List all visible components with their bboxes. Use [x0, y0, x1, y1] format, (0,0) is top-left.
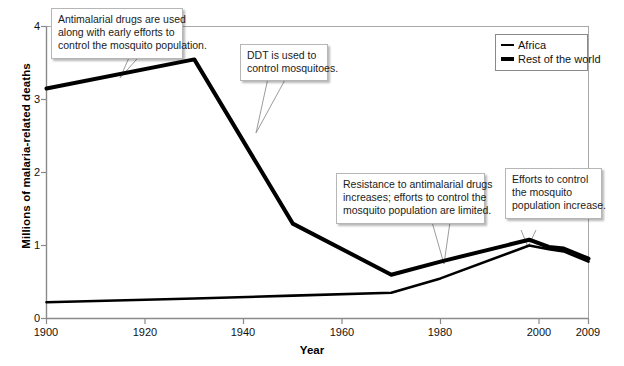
legend-label-africa: Africa: [518, 38, 546, 52]
legend-item-africa: Africa: [501, 38, 579, 52]
x-axis-ticks: [47, 319, 589, 325]
annotation-line: population increase.: [512, 199, 595, 212]
series-line-africa: [47, 246, 589, 303]
x-tick-label-2009: 2009: [563, 326, 613, 338]
callout-leader-lines: [120, 42, 536, 264]
chart-container: 4 3 2 1 0 1900 1920 1940 1960 1980 2000 …: [0, 0, 624, 366]
legend-item-rest-of-the-world: Rest of the world: [501, 52, 579, 66]
x-tick-label-1920: 1920: [120, 326, 170, 338]
chart-legend: Africa Rest of the world: [495, 34, 588, 71]
x-axis-title: Year: [0, 344, 624, 356]
x-tick-label-1960: 1960: [317, 326, 367, 338]
y-axis-title: Millions of malaria-related deaths: [20, 36, 32, 276]
annotation-line: increases; efforts to control the: [343, 191, 478, 204]
x-tick-label-1900: 1900: [21, 326, 71, 338]
annotation-antimalarial-drugs: Antimalarial drugs are used along with e…: [51, 8, 183, 59]
legend-label-rest-of-the-world: Rest of the world: [518, 52, 601, 66]
y-axis-ticks: [41, 27, 47, 319]
annotation-line: Resistance to antimalarial drugs: [343, 178, 478, 191]
annotation-line: DDT is used to: [247, 49, 321, 62]
annotation-resistance: Resistance to antimalarial drugs increas…: [336, 173, 485, 224]
x-tick-label-2000: 2000: [514, 326, 564, 338]
annotation-ddt: DDT is used to control mosquitoes.: [240, 44, 328, 81]
annotation-efforts-increase: Efforts to control the mosquito populati…: [505, 168, 602, 219]
x-tick-label-1980: 1980: [415, 326, 465, 338]
annotation-line: the mosquito: [512, 186, 595, 199]
y-tick-label-4: 4: [14, 20, 40, 32]
annotation-line: Efforts to control: [512, 173, 595, 186]
legend-swatch-rest-of-the-world-icon: [501, 57, 514, 60]
y-tick-label-0: 0: [14, 312, 40, 324]
annotation-line: Antimalarial drugs are used: [58, 13, 176, 26]
legend-swatch-africa-icon: [501, 44, 514, 46]
x-tick-label-1940: 1940: [218, 326, 268, 338]
annotation-line: control the mosquito population.: [58, 39, 176, 52]
annotation-line: control mosquitoes.: [247, 62, 321, 75]
annotation-line: mosquito population are limited.: [343, 204, 478, 217]
annotation-line: along with early efforts to: [58, 26, 176, 39]
